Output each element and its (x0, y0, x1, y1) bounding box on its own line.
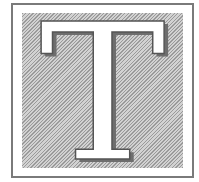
drop-cap-hatched-background: T (22, 13, 183, 168)
drop-cap-letter: T (22, 0, 183, 182)
drop-cap-frame: T (11, 3, 194, 178)
